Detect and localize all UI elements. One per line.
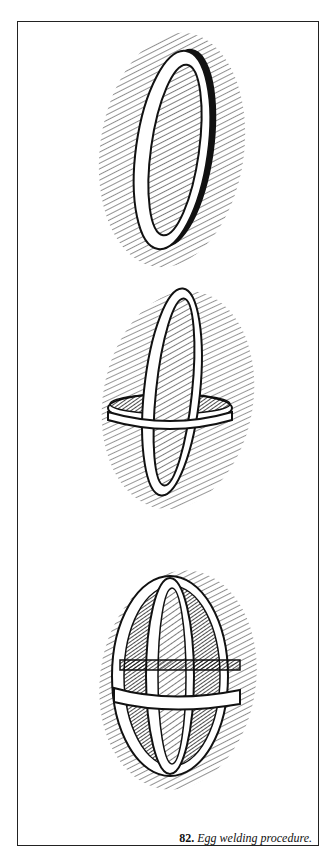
step-3-completed-cage [85,560,270,800]
figure-number: 82. [179,831,194,845]
figure-caption: 82. Egg welding procedure. [179,831,312,846]
egg-welding-illustration [0,0,336,864]
step-2-ring-with-band [85,279,271,522]
step-1-single-ring [84,23,259,277]
figure-caption-text: Egg welding procedure. [197,831,312,845]
